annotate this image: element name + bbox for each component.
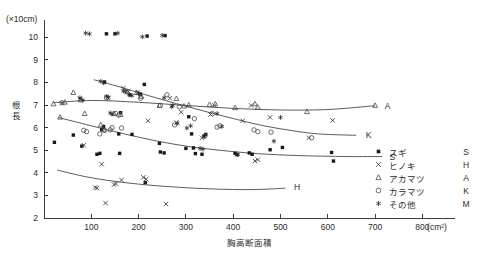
legend-code: H xyxy=(458,160,474,170)
data-point xyxy=(200,153,203,156)
y-tick-label: 7 xyxy=(33,100,38,110)
data-point xyxy=(140,34,144,39)
data-point xyxy=(190,132,193,135)
data-point xyxy=(98,132,102,136)
filled-square-icon xyxy=(370,146,386,157)
y-tick-label: 4 xyxy=(33,168,38,178)
data-point xyxy=(192,146,195,149)
data-point xyxy=(269,130,273,134)
data-point xyxy=(118,152,121,155)
data-point xyxy=(187,115,190,118)
legend-item-s: スギS xyxy=(370,145,474,158)
data-point xyxy=(98,152,101,155)
data-points-group xyxy=(51,31,377,206)
data-point xyxy=(98,122,103,127)
y-tick-label: 8 xyxy=(33,77,38,87)
trend-curve-h xyxy=(57,170,285,190)
y-tick-label: 3 xyxy=(33,190,38,200)
data-point xyxy=(194,152,197,155)
data-point xyxy=(82,111,87,116)
axis-labels-group: (×10cm)(cm²)胸高断面積根長 xyxy=(6,14,447,248)
data-point xyxy=(233,105,238,110)
legend-item-k: カラマツK xyxy=(370,184,474,197)
data-point xyxy=(192,116,196,120)
data-point xyxy=(158,142,161,145)
asterisk-icon xyxy=(370,198,386,209)
data-point xyxy=(145,34,148,37)
data-point xyxy=(373,103,378,108)
legend-code: K xyxy=(458,186,474,196)
series-m xyxy=(78,31,283,157)
curve-end-label-k: K xyxy=(366,130,372,140)
legend-item-a: アカマツA xyxy=(370,171,474,184)
data-point xyxy=(310,136,314,140)
legend: スギSヒノキHアカマツAカラマツKその他M xyxy=(370,145,474,210)
svg-text:根: 根 xyxy=(12,100,21,110)
data-point xyxy=(117,132,120,135)
data-point xyxy=(159,150,162,153)
data-point xyxy=(268,148,271,151)
data-point xyxy=(162,151,165,154)
x-tick-label: 400 xyxy=(226,222,240,232)
data-point xyxy=(184,147,187,150)
triangle-icon xyxy=(370,172,386,183)
x-unit-label: (cm²) xyxy=(427,222,447,232)
data-point xyxy=(185,126,189,131)
svg-text:長: 長 xyxy=(12,111,21,121)
y-tick-label: 6 xyxy=(33,123,38,133)
data-point xyxy=(330,151,333,154)
x-tick-label: 200 xyxy=(132,222,146,232)
data-point xyxy=(53,141,56,144)
data-point xyxy=(165,93,169,97)
data-point xyxy=(87,31,91,36)
x-tick-label: 100 xyxy=(84,222,98,232)
data-point xyxy=(71,90,76,95)
curve-end-label-a: A xyxy=(385,101,391,111)
y-tick-label: 9 xyxy=(33,55,38,65)
data-point xyxy=(58,115,63,120)
data-point xyxy=(119,126,123,130)
data-point xyxy=(84,31,88,36)
y-tick-label: 10 xyxy=(29,32,39,42)
series-a xyxy=(51,89,377,131)
legend-code: S xyxy=(458,147,474,157)
legend-label: その他 xyxy=(386,198,458,210)
data-point xyxy=(143,83,146,86)
data-point xyxy=(250,153,253,156)
data-point xyxy=(146,119,150,123)
data-point xyxy=(174,96,179,101)
x-axis-title: 胸高断面積 xyxy=(227,238,272,248)
data-point xyxy=(51,101,56,106)
data-point xyxy=(105,32,108,35)
curve-end-label-h: H xyxy=(294,182,300,192)
x-tick-label: 300 xyxy=(179,222,193,232)
trend-curve-k xyxy=(94,80,357,136)
series-k xyxy=(60,93,314,140)
data-point xyxy=(278,115,282,120)
data-point xyxy=(255,105,260,110)
data-point xyxy=(272,139,276,144)
data-point xyxy=(103,201,107,205)
x-tick-label: 500 xyxy=(273,222,287,232)
y-tick-label: 5 xyxy=(33,145,38,155)
legend-label: カラマツ xyxy=(386,185,458,197)
legend-item-m: その他M xyxy=(370,197,474,210)
data-point xyxy=(332,159,335,162)
data-point xyxy=(330,118,334,122)
data-point xyxy=(119,178,123,182)
y-tick-label: 2 xyxy=(33,213,38,223)
legend-label: ヒノキ xyxy=(386,159,458,171)
legend-label: スギ xyxy=(386,146,458,158)
plot-canvas: 2345678910100200300400500600700800 AKSH … xyxy=(0,0,478,254)
legend-item-h: ヒノキH xyxy=(370,158,474,171)
x-tick-label: 600 xyxy=(321,222,335,232)
x-tick-label: 700 xyxy=(368,222,382,232)
data-point xyxy=(186,102,191,107)
data-point xyxy=(189,123,193,128)
legend-code: A xyxy=(458,173,474,183)
legend-label: アカマツ xyxy=(386,172,458,184)
data-point xyxy=(256,129,260,133)
circle-icon xyxy=(370,185,386,196)
data-point xyxy=(268,115,272,119)
data-point xyxy=(130,133,133,136)
